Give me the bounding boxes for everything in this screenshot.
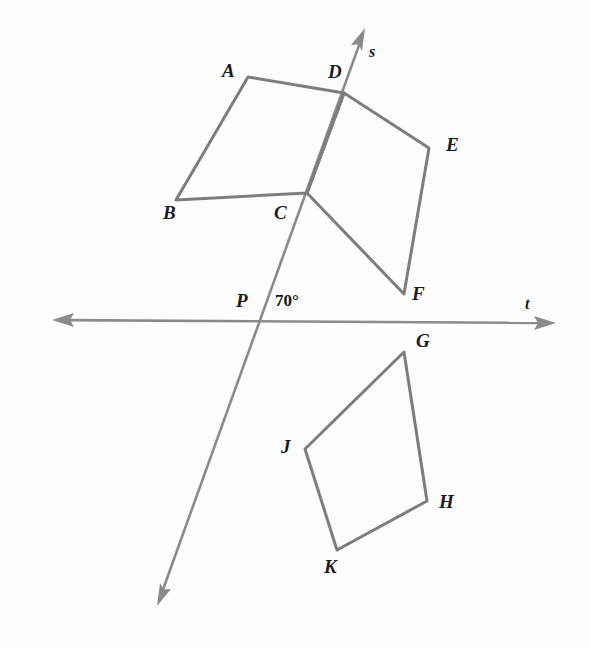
line-t [52,313,556,330]
quadrilateral-cdef [307,93,429,294]
vertex-label-a: A [222,61,235,80]
vertex-label-j: J [281,437,291,456]
quadrilateral-abcd [176,77,344,200]
geometry-diagram: A B C D E F G H K J P s t 70° [0,0,590,648]
vertex-label-c: C [274,203,287,222]
quadrilateral-ghkj [305,352,427,550]
line-t-segment [66,320,542,323]
vertex-label-g: G [416,331,430,350]
line-s [157,28,365,606]
vertex-label-h: H [439,492,454,511]
line-label-t: t [525,296,529,312]
vertex-label-d: D [328,62,342,81]
intersection-label-p: P [236,291,248,310]
vertex-label-k: K [324,557,337,576]
vertex-label-b: B [163,203,176,222]
line-s-segment [162,44,359,592]
line-label-s: s [369,44,375,60]
vertex-label-e: E [446,135,459,154]
vertex-label-f: F [412,284,425,303]
angle-measure-label: 70° [275,292,299,309]
diagram-canvas [0,0,590,648]
